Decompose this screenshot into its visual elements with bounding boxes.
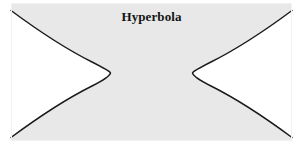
hyperbola-plot	[0, 0, 303, 154]
hyperbola-figure: Hyperbola	[0, 0, 303, 154]
